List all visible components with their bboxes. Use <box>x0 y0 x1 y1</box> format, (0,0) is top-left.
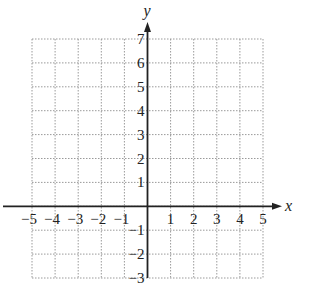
y-tick-label: −2 <box>129 246 145 262</box>
y-tick-label: 7 <box>137 31 145 47</box>
x-tick-label: −1 <box>113 211 129 227</box>
y-tick-label: 1 <box>137 174 145 190</box>
x-tick-label: 1 <box>167 211 175 227</box>
y-tick-label: 4 <box>137 103 145 119</box>
y-tick-label: 3 <box>137 127 145 143</box>
x-tick-label: −2 <box>90 211 106 227</box>
x-tick-label: −5 <box>21 211 37 227</box>
x-axis-label: x <box>284 197 292 214</box>
x-tick-label: 2 <box>190 211 198 227</box>
x-axis-arrow-icon <box>272 203 282 210</box>
y-tick-label: −3 <box>129 270 145 286</box>
x-tick-label: 4 <box>236 211 244 227</box>
y-tick-label: 5 <box>137 79 145 95</box>
y-axis-label: y <box>142 2 152 20</box>
x-tick-label: −4 <box>44 211 60 227</box>
y-tick-label: 6 <box>137 55 145 71</box>
y-axis-arrow-icon <box>144 22 151 32</box>
coordinate-plane: xy−5−4−3−2−1123457654321−1−2−3 <box>0 0 311 306</box>
x-tick-label: 5 <box>259 211 267 227</box>
y-tick-label: −1 <box>129 222 145 238</box>
x-tick-label: −3 <box>67 211 83 227</box>
y-tick-label: 2 <box>137 151 145 167</box>
x-tick-label: 3 <box>213 211 221 227</box>
